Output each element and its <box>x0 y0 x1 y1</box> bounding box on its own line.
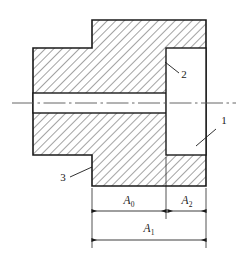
dimension-a1-subscript: 1 <box>151 228 155 237</box>
callout-3-label: 3 <box>60 171 66 183</box>
callout-2-label: 2 <box>181 68 187 80</box>
dimension-a1: A1 <box>92 222 206 240</box>
callout-3: 3 <box>60 167 92 183</box>
section-body <box>20 10 230 200</box>
dimension-a0-subscript: 0 <box>131 200 135 209</box>
technical-drawing: 1 2 3 A0 A2 A1 <box>0 0 246 264</box>
dimension-a2: A2 <box>168 194 206 211</box>
dimension-a1-label: A1 <box>143 222 155 237</box>
dimension-a2-label: A2 <box>181 194 193 209</box>
dimension-a0-label: A0 <box>123 194 135 209</box>
dimension-a0: A0 <box>92 194 166 211</box>
dimension-a2-subscript: 2 <box>189 200 193 209</box>
counterbore-profile <box>166 48 206 155</box>
callout-1-label: 1 <box>221 114 227 126</box>
callout-3-leader <box>70 167 92 177</box>
